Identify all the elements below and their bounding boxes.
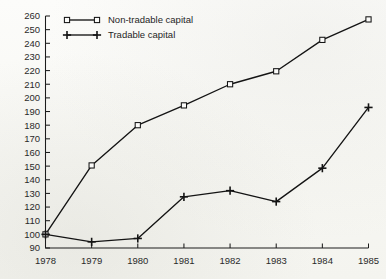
legend-item-label: Non-tradable capital [108, 14, 193, 25]
data-series [43, 17, 371, 237]
data-point-marker-square [94, 17, 99, 22]
y-axis-tick-label: 220 [24, 65, 40, 76]
series-line-path [46, 107, 369, 241]
x-axis-tick-label: 1983 [266, 255, 287, 266]
legend-item: Non-tradable capital [64, 14, 193, 25]
data-point-marker-square [64, 17, 69, 22]
y-axis-tick-label: 110 [25, 215, 40, 226]
x-axis-tick-label: 1984 [312, 255, 333, 266]
y-axis-tick-label: 90 [29, 242, 40, 253]
x-axis-tick-marks [46, 244, 369, 249]
chart-figure: 9010011012013014015016017018019020021022… [0, 0, 386, 279]
y-axis-tick-label: 260 [24, 10, 40, 21]
y-axis-tick-label: 100 [24, 229, 40, 240]
x-axis-tick-label: 1981 [173, 255, 194, 266]
y-axis-tick-label: 150 [24, 161, 40, 172]
x-axis-tick-labels: 19781979198019811982198319841985 [35, 255, 379, 266]
data-point-marker-square [274, 69, 279, 74]
data-series-layer [41, 17, 372, 246]
x-axis-tick-label: 1982 [220, 255, 241, 266]
data-series [41, 103, 372, 246]
y-axis-tick-label: 170 [24, 133, 40, 144]
x-axis-tick-label: 1985 [358, 255, 379, 266]
chart-legend: Non-tradable capitalTradable capital [63, 14, 193, 40]
y-axis-tick-label: 230 [24, 51, 40, 62]
x-axis-tick-label: 1978 [35, 255, 56, 266]
x-axis-tick-label: 1979 [81, 255, 102, 266]
data-point-marker-square [320, 37, 325, 42]
legend-item-label: Tradable capital [108, 29, 175, 40]
y-axis-tick-label: 130 [24, 188, 40, 199]
y-axis-tick-marks [46, 16, 51, 248]
y-axis-tick-label: 200 [24, 92, 40, 103]
y-axis-tick-label: 190 [24, 106, 40, 117]
series-line-path [46, 19, 369, 234]
legend-item: Tradable capital [63, 29, 175, 40]
data-point-marker-square [89, 163, 94, 168]
data-point-marker-square [366, 17, 371, 22]
axis-frame [46, 16, 369, 248]
y-axis-tick-label: 210 [24, 79, 40, 90]
data-point-marker-square [227, 82, 232, 87]
y-axis-tick-labels: 9010011012013014015016017018019020021022… [24, 10, 40, 253]
data-point-marker-square [135, 123, 140, 128]
x-axis-tick-label: 1980 [127, 255, 148, 266]
line-chart-plot: 9010011012013014015016017018019020021022… [0, 0, 386, 279]
y-axis-tick-label: 240 [24, 38, 40, 49]
y-axis-tick-label: 160 [24, 147, 40, 158]
data-point-marker-square [181, 103, 186, 108]
y-axis-tick-label: 140 [24, 174, 40, 185]
y-axis-tick-label: 250 [24, 24, 40, 35]
y-axis-tick-label: 180 [24, 120, 40, 131]
y-axis-tick-label: 120 [24, 201, 40, 212]
